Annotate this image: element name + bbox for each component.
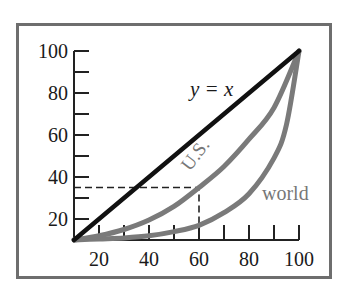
world-label: world — [262, 182, 309, 204]
x-tick-label: 80 — [239, 248, 259, 270]
y-tick-label: 20 — [48, 208, 68, 230]
us-label: U.S. — [176, 135, 213, 175]
y-tick-label: 100 — [38, 40, 68, 62]
x-tick-label: 20 — [89, 248, 109, 270]
x-tick-label: 60 — [189, 248, 209, 270]
equality-line — [74, 51, 299, 240]
diagonal-label: y = x — [188, 77, 234, 101]
y-tick-label: 80 — [48, 82, 68, 104]
lorenz-chart: 2040608010020406080100 y = x U.S. world — [0, 0, 349, 292]
y-tick-label: 60 — [48, 124, 68, 146]
y-tick-label: 40 — [48, 166, 68, 188]
x-tick-label: 100 — [284, 248, 314, 270]
x-tick-label: 40 — [139, 248, 159, 270]
